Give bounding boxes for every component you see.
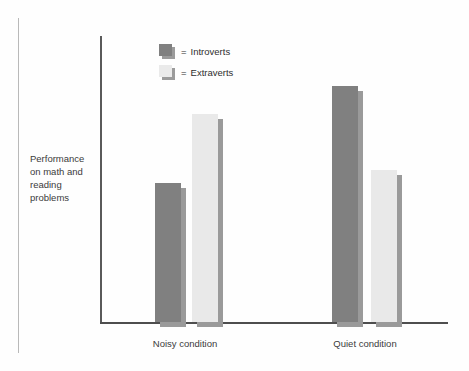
legend-equals-sign-extraverts: = — [181, 67, 187, 78]
y-axis-label-line-4: problems — [30, 191, 96, 204]
legend-label-extraverts: Extraverts — [191, 67, 234, 78]
legend-swatch-face — [159, 65, 172, 77]
legend-swatch-extraverts-icon — [159, 65, 176, 80]
legend-equals-sign-introverts: = — [181, 46, 187, 57]
y-axis-label-line-1: Performance — [30, 152, 96, 165]
bar-face — [332, 86, 358, 322]
bar-face — [371, 170, 397, 322]
bar-quiet-condition-introverts — [332, 86, 363, 327]
page-left-rule — [18, 18, 19, 353]
bar-noisy-condition-introverts — [155, 183, 186, 327]
y-axis-label-line-2: on math and — [30, 165, 96, 178]
bar-quiet-condition-extraverts — [371, 170, 402, 327]
bar-face — [192, 114, 218, 322]
y-axis-label: Performance on math and reading problems — [30, 152, 96, 204]
chart-figure: Performance on math and reading problems… — [0, 0, 469, 371]
legend-swatch-face — [159, 44, 172, 56]
legend-swatch-introverts-icon — [159, 44, 176, 59]
legend-label-introverts: Introverts — [191, 46, 231, 57]
legend-item-extraverts: = Extraverts — [159, 64, 233, 81]
y-axis-label-line-3: reading — [30, 178, 96, 191]
bar-face — [155, 183, 181, 322]
legend-item-introverts: = Introverts — [159, 43, 233, 60]
y-axis-line — [100, 36, 102, 324]
bar-noisy-condition-extraverts — [192, 114, 223, 327]
x-axis-category-label-1: Quiet condition — [310, 338, 420, 349]
x-axis-category-label-0: Noisy condition — [130, 338, 240, 349]
chart-legend: = Introverts = Extraverts — [159, 43, 233, 85]
